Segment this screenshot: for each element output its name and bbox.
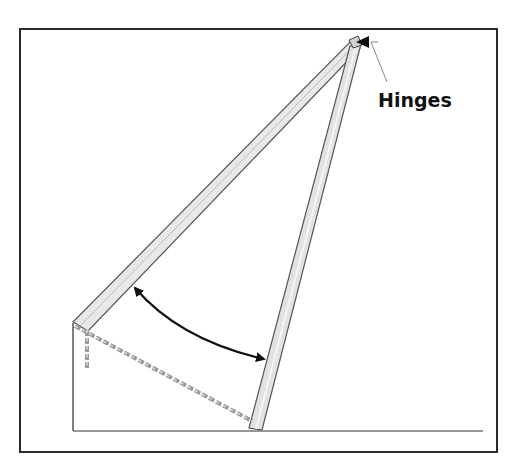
hinges-label: Hinges: [378, 89, 452, 111]
diagram-canvas: [0, 0, 515, 467]
hinged-frame-diagram: Hinges: [0, 0, 515, 467]
